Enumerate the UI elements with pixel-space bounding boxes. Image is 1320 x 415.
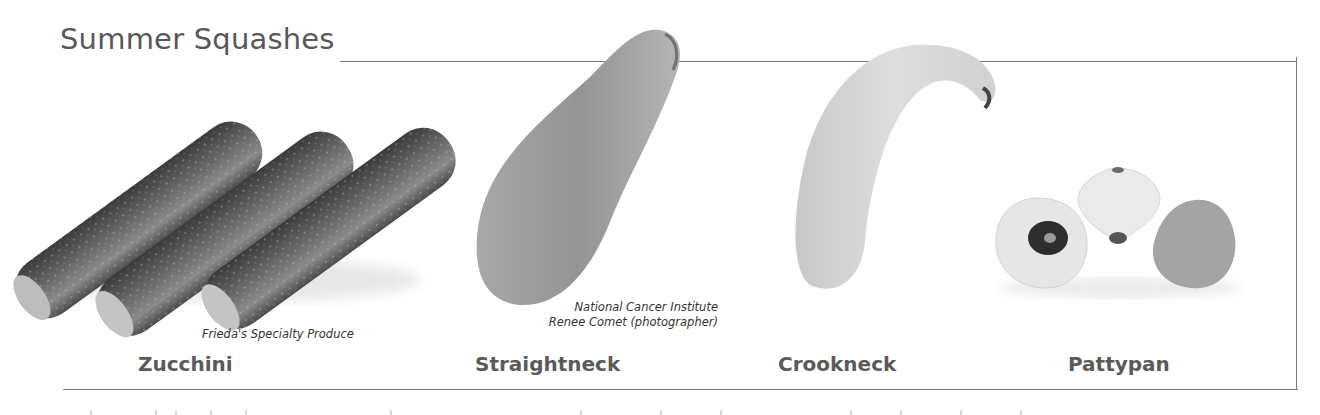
label-straightneck: Straightneck [475,352,620,376]
credit-line: National Cancer Institute [520,300,718,315]
label-zucchini: Zucchini [138,352,233,376]
zucchini-credit: Frieda's Specialty Produce [202,327,354,342]
credit-line: Renee Comet (photographer) [520,315,718,330]
frame-right-rule [1296,57,1297,390]
crookneck-photo [785,30,1005,300]
straightneck-credit: National Cancer Institute Renee Comet (p… [520,300,718,330]
pattypan-photo [990,150,1250,300]
zucchini-photo [20,75,440,315]
cropped-text-fragment [60,410,1260,415]
label-crookneck: Crookneck [778,352,896,376]
frame-bottom-rule [63,389,1298,390]
credit-line: Frieda's Specialty Produce [202,327,354,342]
page-title: Summer Squashes [60,22,335,56]
label-pattypan: Pattypan [1068,352,1170,376]
straightneck-photo [470,22,690,312]
